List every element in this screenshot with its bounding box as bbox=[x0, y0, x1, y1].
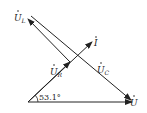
angle-arc bbox=[35, 95, 38, 102]
label-U: U bbox=[130, 98, 138, 108]
phasor-diagram: UL UR UC I U 53.1° bbox=[0, 0, 147, 113]
phasor-UL bbox=[28, 19, 70, 62]
phasor-UC bbox=[31, 16, 131, 100]
label-UR: UR bbox=[50, 67, 63, 78]
label-I: I bbox=[93, 38, 98, 48]
angle-label: 53.1° bbox=[39, 93, 61, 102]
label-UC: UC bbox=[97, 65, 110, 76]
label-UL: UL bbox=[14, 13, 26, 24]
